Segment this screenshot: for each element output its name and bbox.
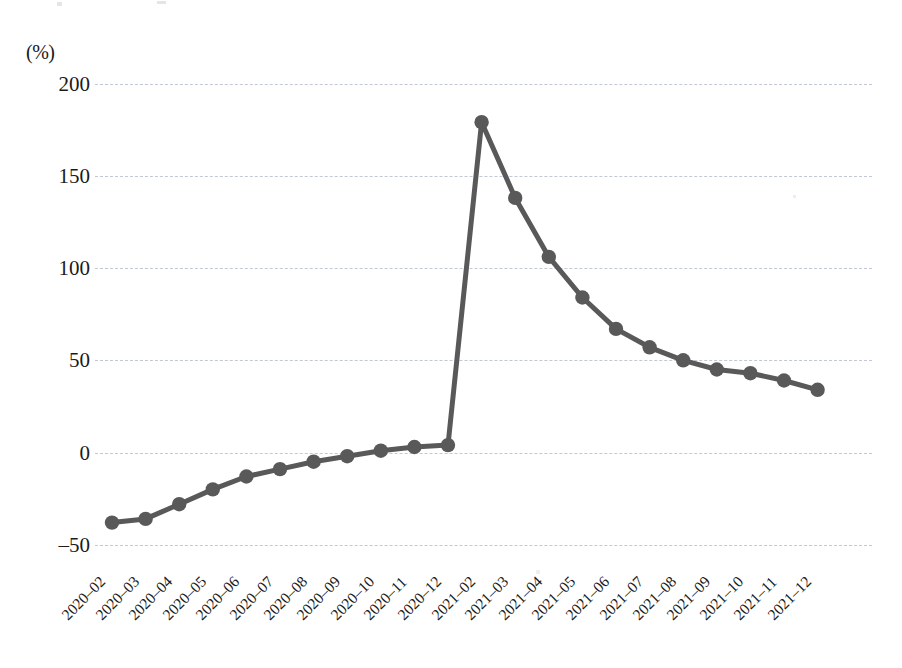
data-point-marker xyxy=(609,322,623,336)
data-point-marker xyxy=(508,191,522,205)
data-point-marker xyxy=(374,444,388,458)
data-point-marker xyxy=(810,383,824,397)
data-point-marker xyxy=(172,497,186,511)
data-point-marker xyxy=(710,362,724,376)
data-point-marker xyxy=(777,373,791,387)
data-point-marker xyxy=(642,340,656,354)
data-point-marker xyxy=(676,353,690,367)
data-point-marker xyxy=(138,512,152,526)
data-point-marker xyxy=(575,290,589,304)
data-point-marker xyxy=(441,438,455,452)
line-series-path xyxy=(112,122,818,522)
data-point-marker xyxy=(273,462,287,476)
data-point-marker xyxy=(743,366,757,380)
data-point-marker xyxy=(407,440,421,454)
data-point-marker xyxy=(306,455,320,469)
series-layer xyxy=(0,0,902,668)
data-point-marker xyxy=(206,482,220,496)
data-point-marker xyxy=(542,250,556,264)
chart-container: (%) 200150100500–50 2020–022020–032020–0… xyxy=(0,0,902,668)
data-point-marker xyxy=(105,515,119,529)
data-point-marker xyxy=(239,469,253,483)
data-point-marker xyxy=(340,449,354,463)
line-series-markers xyxy=(105,115,825,530)
data-point-marker xyxy=(474,115,488,129)
